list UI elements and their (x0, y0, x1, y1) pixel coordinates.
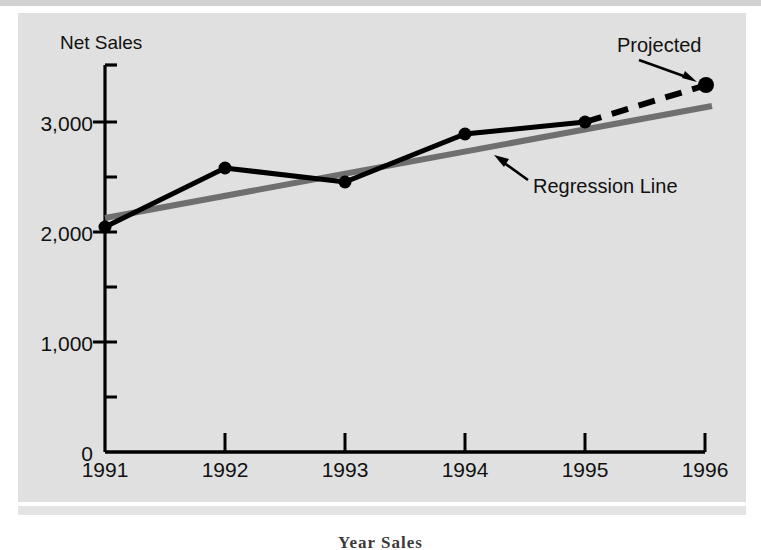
projected-annotation-arrowhead (682, 71, 697, 82)
x-tick-label-1992: 1992 (202, 458, 249, 481)
net-sales-line-chart: 3,000 2,000 1,000 0 Net Sales 1991 1992 … (0, 0, 761, 550)
x-axis (105, 433, 705, 452)
projected-annotation-group: Projected (617, 34, 702, 82)
data-point-1996-projected[interactable] (698, 77, 714, 93)
data-point-1992[interactable] (219, 162, 232, 175)
projected-annotation-label: Projected (617, 34, 702, 56)
caption-sliver: Year Sales (0, 536, 761, 550)
regression-annotation-label: Regression Line (533, 175, 678, 197)
data-point-1993[interactable] (339, 176, 352, 189)
x-tick-label-1995: 1995 (562, 458, 609, 481)
y-axis-title: Net Sales (60, 32, 142, 53)
y-axis (93, 65, 117, 452)
x-tick-label-1991: 1991 (82, 458, 129, 481)
x-tick-label-1994: 1994 (442, 458, 489, 481)
data-point-1991[interactable] (99, 221, 112, 234)
x-tick-label-1996: 1996 (682, 458, 729, 481)
regression-annotation-group: Regression Line (494, 155, 678, 197)
y-tick-label-1000: 1,000 (40, 332, 93, 355)
data-point-1994[interactable] (459, 128, 472, 141)
caption-partial-text: Year Sales (0, 536, 761, 550)
regression-line-series (105, 106, 712, 218)
figure-page: 3,000 2,000 1,000 0 Net Sales 1991 1992 … (0, 0, 761, 550)
data-point-1995[interactable] (579, 116, 592, 129)
y-tick-label-2000: 2,000 (40, 222, 93, 245)
y-tick-label-3000: 3,000 (40, 112, 93, 135)
x-tick-label-1993: 1993 (322, 458, 369, 481)
